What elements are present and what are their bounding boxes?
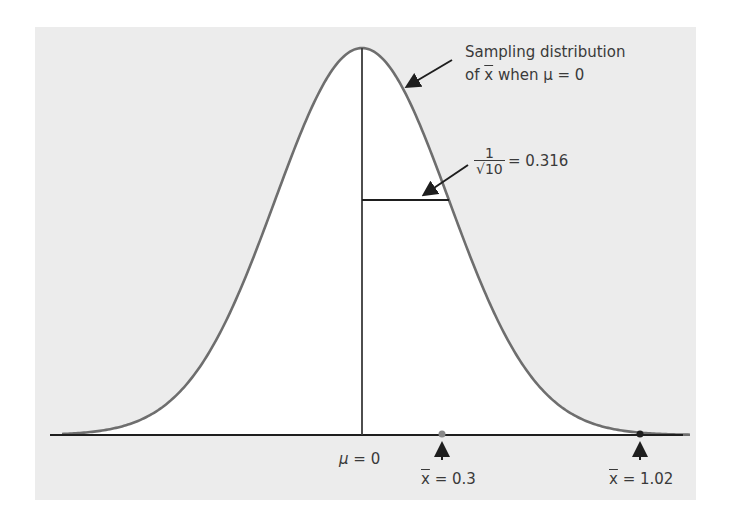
xbar-symbol: x [484,66,493,84]
xbar-0.3-label: x = 0.3 [421,472,476,487]
xbar-0.3-point [439,431,446,438]
normal-curve-plot [0,0,731,520]
xbar-1.02-value: = 1.02 [618,470,674,488]
curve-label-line1: Sampling distribution [465,45,625,60]
sd-denominator: √10 [474,160,505,176]
mu-symbol: μ [339,450,349,468]
curve-label-arrow [408,60,452,86]
sd-value: = 0.316 [508,154,568,169]
curve-label-line2: of x when μ = 0 [465,68,584,83]
sd-numerator: 1 [483,146,496,160]
xbar-0.3-value: = 0.3 [430,470,476,488]
curve-label-prefix: of [465,66,484,84]
xbar-1.02-label: x = 1.02 [609,472,673,487]
xbar-1.02-point [637,431,644,438]
xbar-symbol: x [609,470,618,488]
sd-fraction: 1 √10 [474,146,505,176]
curve-fill [62,48,690,435]
curve-label-suffix: when μ = 0 [493,66,584,84]
mu-label: μ = 0 [339,452,380,467]
xbar-symbol: x [421,470,430,488]
mu-value: = 0 [349,450,381,468]
